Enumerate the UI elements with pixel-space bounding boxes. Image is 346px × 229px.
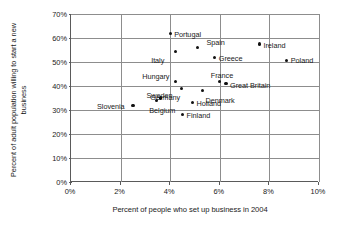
y-tick-label: 40%: [39, 82, 67, 91]
data-point-marker[interactable]: [201, 89, 204, 92]
y-tick-label: 30%: [39, 106, 67, 115]
gridline-vertical: [319, 14, 320, 182]
data-point-label: France: [211, 71, 233, 80]
x-tick-label: 0%: [55, 187, 85, 196]
data-point-marker[interactable]: [258, 42, 261, 45]
x-tick-mark: [318, 182, 319, 185]
x-tick-mark: [219, 182, 220, 185]
gridline-vertical: [121, 14, 122, 182]
plot-area: PortugalSpainIrelandItalyGreecePolandHun…: [70, 14, 318, 182]
data-point-marker[interactable]: [131, 104, 134, 107]
x-tick-mark: [70, 182, 71, 185]
data-point-marker[interactable]: [169, 32, 172, 35]
x-tick-label: 2%: [105, 187, 135, 196]
x-tick-mark: [169, 182, 170, 185]
x-axis-title: Percent of people who set up business in…: [60, 205, 320, 214]
data-point-label: Finland: [187, 111, 211, 120]
gridline-horizontal: [71, 134, 319, 135]
gridline-horizontal: [71, 158, 319, 159]
y-tick-label: 20%: [39, 130, 67, 139]
x-axis-ticks: 0%2%4%6%8%10%: [70, 182, 320, 200]
data-point-label: Ireland: [263, 41, 285, 50]
x-tick-label: 4%: [154, 187, 184, 196]
data-point-label: Holland: [197, 99, 221, 108]
data-point-marker[interactable]: [159, 96, 162, 99]
x-tick-mark: [268, 182, 269, 185]
gridline-horizontal: [71, 62, 319, 63]
data-point-marker[interactable]: [213, 56, 216, 59]
y-tick-label: 60%: [39, 34, 67, 43]
data-point-label: Greece: [219, 54, 243, 63]
data-point-label: Slovenia: [97, 102, 125, 111]
gridline-horizontal: [71, 14, 319, 15]
gridline-horizontal: [71, 86, 319, 87]
gridline-vertical: [269, 14, 270, 182]
y-tick-label: 70%: [39, 10, 67, 19]
data-point-label: Great Britain: [230, 81, 270, 90]
data-point-label: Italy: [151, 56, 164, 65]
y-tick-label: 50%: [39, 58, 67, 67]
x-tick-label: 8%: [253, 187, 283, 196]
x-tick-label: 6%: [204, 187, 234, 196]
data-point-marker[interactable]: [174, 80, 177, 83]
data-point-marker[interactable]: [218, 80, 221, 83]
data-point-label: Spain: [206, 38, 224, 47]
data-point-marker[interactable]: [191, 101, 194, 104]
data-point-marker[interactable]: [224, 82, 227, 85]
y-tick-label: 0%: [39, 178, 67, 187]
y-axis-title: Percent of adult population willing to s…: [2, 10, 36, 190]
data-point-label: Hungary: [142, 72, 169, 81]
data-point-label: Poland: [291, 56, 313, 65]
data-point-marker[interactable]: [181, 113, 184, 116]
data-point-label: Portugal: [174, 30, 201, 39]
x-tick-label: 10%: [303, 187, 333, 196]
scatter-chart: Percent of adult population willing to s…: [0, 0, 346, 229]
y-axis-ticks: 0%10%20%30%40%50%60%70%: [38, 14, 67, 182]
data-point-label: Belgium: [149, 106, 175, 115]
data-point-marker[interactable]: [174, 50, 177, 53]
x-tick-mark: [120, 182, 121, 185]
data-point-marker[interactable]: [196, 46, 199, 49]
data-point-marker[interactable]: [180, 87, 183, 90]
y-tick-label: 10%: [39, 154, 67, 163]
